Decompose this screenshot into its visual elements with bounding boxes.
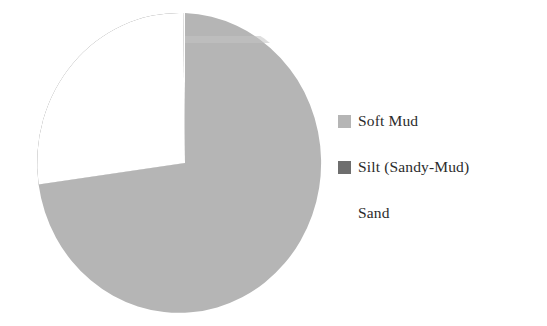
pie-slice-sand [37, 13, 185, 185]
legend-swatch-soft-mud-icon [338, 115, 351, 128]
legend-item-silt[interactable]: Silt (Sandy-Mud) [338, 144, 543, 190]
chart-legend: Soft Mud Silt (Sandy-Mud) Sand [338, 98, 543, 236]
legend-item-soft-mud[interactable]: Soft Mud [338, 98, 543, 144]
pie-3d-highlight [185, 36, 335, 43]
legend-swatch-silt-icon [338, 161, 351, 174]
legend-label-soft-mud: Soft Mud [358, 113, 418, 129]
legend-label-sand: Sand [358, 205, 390, 221]
pie-chart-figure: Soft Mud Silt (Sandy-Mud) Sand [0, 0, 547, 326]
pie-chart-svg [0, 0, 340, 326]
legend-item-sand[interactable]: Sand [338, 190, 543, 236]
pie-plot-area [0, 0, 340, 326]
legend-label-silt: Silt (Sandy-Mud) [358, 159, 469, 175]
legend-swatch-sand-icon [338, 207, 351, 220]
